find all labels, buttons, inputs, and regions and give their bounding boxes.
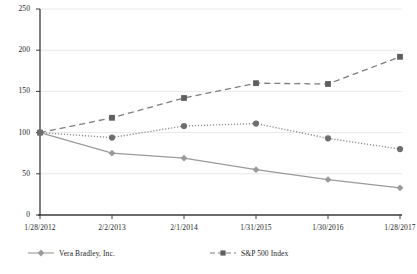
marker-series-2-1 xyxy=(109,134,115,140)
legend-entry-vera-bradley: Vera Bradley, Inc. xyxy=(28,248,115,258)
y-tick-label-0: 0 xyxy=(4,210,30,219)
series-line-s-p-500-index xyxy=(40,57,400,133)
marker-s-p-500-index-5 xyxy=(397,54,403,60)
legend-label-sp500: S&P 500 Index xyxy=(239,249,288,258)
performance-line-chart: 050100150200250 1/28/20122/2/20132/1/201… xyxy=(0,0,417,274)
x-tick-label-5: 1/28/2017 xyxy=(365,223,417,232)
marker-s-p-500-index-3 xyxy=(253,80,259,86)
legend-entry-sp500: S&P 500 Index xyxy=(210,248,288,258)
series-line-series-2 xyxy=(40,124,400,150)
marker-s-p-500-index-2 xyxy=(181,95,187,101)
marker-vera-bradley-inc-3 xyxy=(253,166,260,173)
x-tick-label-2: 2/1/2014 xyxy=(149,223,219,232)
marker-series-2-3 xyxy=(253,120,259,126)
marker-series-2-0 xyxy=(37,130,43,136)
marker-s-p-500-index-1 xyxy=(109,115,115,121)
marker-series-2-5 xyxy=(397,146,403,152)
marker-vera-bradley-inc-5 xyxy=(397,184,404,191)
chart-legend: Vera Bradley, Inc. S&P 500 Index xyxy=(0,245,417,265)
y-tick-label-100: 100 xyxy=(4,128,30,137)
marker-vera-bradley-inc-1 xyxy=(109,150,116,157)
chart-axes xyxy=(36,9,402,219)
x-tick-label-1: 2/2/2013 xyxy=(77,223,147,232)
gridlines xyxy=(40,9,402,174)
chart-series xyxy=(37,54,404,191)
x-tick-label-0: 1/28/2012 xyxy=(5,223,75,232)
marker-series-2-2 xyxy=(181,123,187,129)
x-tick-label-4: 1/30/2016 xyxy=(293,223,363,232)
legend-label-vera-bradley: Vera Bradley, Inc. xyxy=(57,249,115,258)
y-tick-label-200: 200 xyxy=(4,45,30,54)
y-tick-label-150: 150 xyxy=(4,86,30,95)
marker-vera-bradley-inc-4 xyxy=(325,176,332,183)
series-line-vera-bradley-inc xyxy=(40,133,400,188)
marker-series-2-4 xyxy=(325,135,331,141)
y-tick-label-50: 50 xyxy=(4,169,30,178)
marker-vera-bradley-inc-2 xyxy=(181,155,188,162)
marker-s-p-500-index-4 xyxy=(325,81,331,87)
chart-plot-area xyxy=(0,0,417,274)
legend-swatch-sp500 xyxy=(210,248,236,258)
x-tick-label-3: 1/31/2015 xyxy=(221,223,291,232)
y-tick-label-250: 250 xyxy=(4,4,30,13)
legend-swatch-vera-bradley xyxy=(28,248,54,258)
